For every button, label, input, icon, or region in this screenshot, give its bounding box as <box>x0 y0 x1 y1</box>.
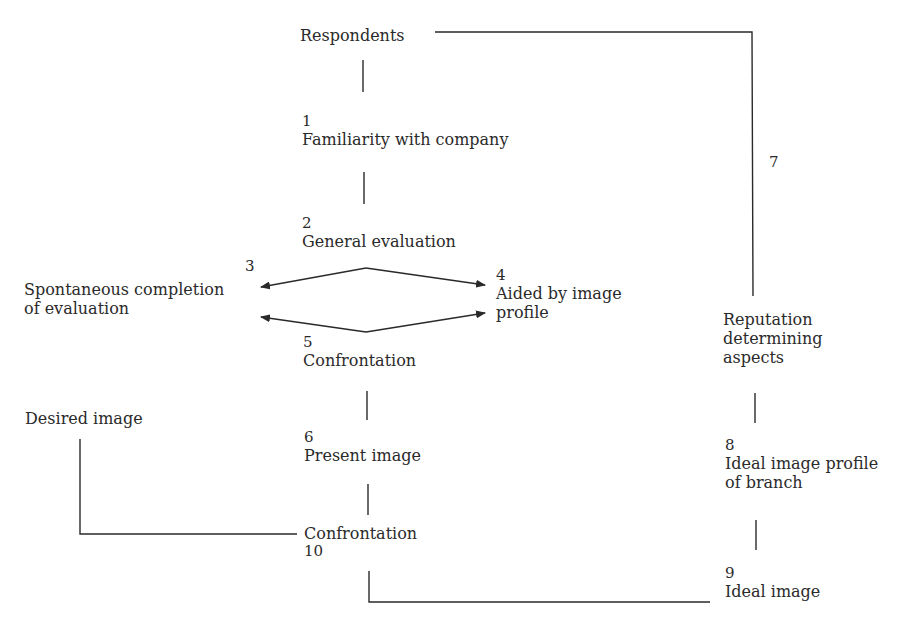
edge-2-4-arrow <box>366 268 485 285</box>
node-4-line1: Aided by image <box>496 284 622 303</box>
flow-diagram: Respondents 1 Familiarity with company 2… <box>0 0 920 627</box>
node-10-label: Confrontation <box>304 524 417 543</box>
node-8: 8 Ideal image profile of branch <box>725 437 878 492</box>
edge-5-3-arrow <box>261 317 366 332</box>
node-9: 9 Ideal image <box>725 565 820 601</box>
edge-5-4-arrow <box>366 313 485 332</box>
node-10-number: 10 <box>304 543 417 560</box>
node-3: Spontaneous completion of evaluation <box>24 280 224 318</box>
node-5-number: 5 <box>303 334 416 351</box>
node-2-label: General evaluation <box>302 232 456 251</box>
edge-respondents-reputation <box>435 32 753 296</box>
node-6-label: Present image <box>304 446 421 465</box>
node-6-number: 6 <box>304 429 421 446</box>
node-2-number: 2 <box>302 215 456 232</box>
node-6: 6 Present image <box>304 429 421 465</box>
node-8-number: 8 <box>725 437 878 454</box>
node-4: 4 Aided by image profile <box>496 267 622 322</box>
node-8-line1: Ideal image profile <box>725 454 878 473</box>
node-9-label: Ideal image <box>725 582 820 601</box>
node-5-label: Confrontation <box>303 351 416 370</box>
edge-7-label: 7 <box>769 154 779 171</box>
edge-2-3-arrow <box>261 268 366 287</box>
node-3-line2: of evaluation <box>24 299 224 318</box>
node-reputation-line1: Reputation <box>723 310 823 329</box>
node-1-label: Familiarity with company <box>302 130 508 149</box>
node-8-line2: of branch <box>725 473 878 492</box>
edge-desired-10 <box>80 439 297 534</box>
edge-10-9 <box>369 571 710 602</box>
node-respondents: Respondents <box>300 26 405 45</box>
node-reputation-line2: determining <box>723 329 823 348</box>
node-1-number: 1 <box>302 113 508 130</box>
node-reputation-line3: aspects <box>723 348 823 367</box>
node-1: 1 Familiarity with company <box>302 113 508 149</box>
node-reputation: Reputation determining aspects <box>723 310 823 367</box>
node-3-line1: Spontaneous completion <box>24 280 224 299</box>
node-10: Confrontation 10 <box>304 524 417 560</box>
node-5: 5 Confrontation <box>303 334 416 370</box>
node-desired: Desired image <box>25 409 143 428</box>
node-4-number: 4 <box>496 267 622 284</box>
node-4-line2: profile <box>496 303 622 322</box>
node-3-number: 3 <box>245 258 255 275</box>
node-2: 2 General evaluation <box>302 215 456 251</box>
node-respondents-label: Respondents <box>300 26 405 45</box>
node-9-number: 9 <box>725 565 820 582</box>
node-desired-label: Desired image <box>25 409 143 428</box>
